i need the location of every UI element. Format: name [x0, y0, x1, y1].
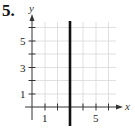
x-axis-arrow-icon	[116, 105, 123, 110]
y-tick-label-1: 1	[20, 88, 26, 100]
ticks	[29, 28, 109, 111]
y-axis-label: y	[28, 2, 34, 14]
axes	[25, 19, 120, 120]
graph: y x 1 5 1 3 5	[0, 0, 135, 129]
x-axis-label: x	[124, 100, 130, 112]
y-axis-arrow-icon	[30, 14, 35, 21]
y-tick-label-3: 3	[20, 62, 26, 74]
x-tick-label-5: 5	[93, 112, 99, 124]
grid	[32, 22, 116, 107]
x-tick-label-1: 1	[42, 112, 48, 124]
y-tick-label-5: 5	[20, 35, 26, 47]
